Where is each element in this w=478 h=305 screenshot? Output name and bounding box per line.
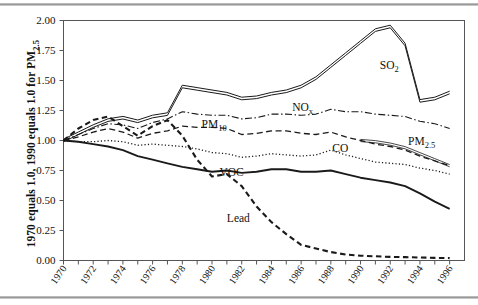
x-axis-tick-label-group: 1992 <box>375 263 395 286</box>
x-axis-tick-label: 1974 <box>108 263 128 286</box>
x-axis-tick-label: 1994 <box>405 263 425 286</box>
y-axis-tick-label: 0.50 <box>36 194 56 206</box>
x-axis-tick-label: 1996 <box>434 263 454 286</box>
y-axis-tick-label: 0.75 <box>36 164 56 176</box>
series-lead <box>64 117 450 259</box>
x-axis-tick-label: 1986 <box>286 263 306 286</box>
x-axis-tick-label-group: 1990 <box>345 263 365 286</box>
y-axis-tick-label: 1.50 <box>36 74 56 86</box>
x-axis-tick-label: 1982 <box>226 263 246 286</box>
x-axis-tick-label-group: 1996 <box>434 263 454 286</box>
x-axis-tick-label: 1976 <box>137 263 157 286</box>
x-axis-tick-label-group: 1994 <box>405 263 425 286</box>
y-axis-tick-label: 1.00 <box>36 134 56 146</box>
x-axis-tick-label-group: 1976 <box>137 263 157 286</box>
series-line <box>361 142 450 167</box>
x-axis-tick-label: 1980 <box>197 263 217 286</box>
x-axis-tick-label-group: 1970 <box>48 263 68 286</box>
y-axis-tick-label: 1.25 <box>36 104 56 116</box>
line-chart-svg: 0.000.250.500.751.001.251.501.752.001970… <box>0 0 478 305</box>
y-axis-tick-label: 1.75 <box>36 44 56 56</box>
x-axis-tick-label: 1992 <box>375 263 395 286</box>
series-voc <box>64 141 450 209</box>
x-axis-tick-label: 1990 <box>345 263 365 286</box>
series-label-lead: Lead <box>227 212 250 224</box>
x-axis-tick-label: 1988 <box>315 263 335 286</box>
y-axis-tick-label: 0.00 <box>36 254 56 266</box>
figure-root: 1970 equals 1.0, 1990 equals 1.0 for PM2… <box>0 0 478 305</box>
series-line <box>64 141 450 209</box>
series-label-voc: VOC <box>219 166 244 178</box>
x-axis-tick-label-group: 1974 <box>108 263 128 286</box>
x-axis-tick-label: 1978 <box>167 263 187 286</box>
series-label-co: CO <box>332 142 348 154</box>
x-axis-tick-label-group: 1988 <box>315 263 335 286</box>
x-axis-tick-label-group: 1978 <box>167 263 187 286</box>
x-axis-tick-label-group: 1972 <box>78 263 98 286</box>
series-label-pm25: PM2.5 <box>408 135 435 150</box>
x-axis-tick-label-group: 1986 <box>286 263 306 286</box>
x-axis-tick-label: 1972 <box>78 263 98 286</box>
series-line <box>64 117 450 259</box>
plot-area: 0.000.250.500.751.001.251.501.752.001970… <box>0 0 478 305</box>
x-axis-tick-label-group: 1984 <box>256 263 276 286</box>
series-line <box>64 25 450 139</box>
y-axis-tick-label: 2.00 <box>36 14 56 26</box>
x-axis-tick-label-group: 1982 <box>226 263 246 286</box>
series-label-pm10: PM10 <box>202 118 227 133</box>
x-axis-tick-label-group: 1980 <box>197 263 217 286</box>
series-label-so2: SO2 <box>380 59 399 74</box>
x-axis-tick-label: 1984 <box>256 263 276 286</box>
series-label-nox: NOx <box>292 101 314 116</box>
plot-frame <box>64 21 465 261</box>
y-axis-tick-label: 0.25 <box>36 224 56 236</box>
x-axis-tick-label: 1970 <box>48 263 68 286</box>
